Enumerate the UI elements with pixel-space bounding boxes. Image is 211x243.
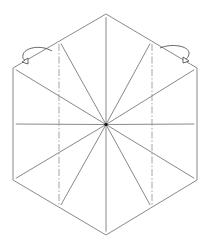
center-point bbox=[104, 123, 107, 126]
arrowhead-icon bbox=[183, 57, 189, 63]
radial-crease bbox=[16, 70, 106, 125]
radial-crease bbox=[61, 44, 106, 125]
radial-crease bbox=[106, 44, 150, 125]
fold-arrow-left bbox=[22, 47, 52, 64]
radial-crease bbox=[106, 125, 194, 179]
origami-diagram bbox=[0, 0, 211, 243]
radial-crease bbox=[16, 125, 106, 179]
arrowhead-icon bbox=[22, 58, 28, 64]
radial-crease bbox=[61, 125, 106, 206]
radial-crease bbox=[106, 125, 150, 206]
radial-crease bbox=[106, 70, 194, 125]
